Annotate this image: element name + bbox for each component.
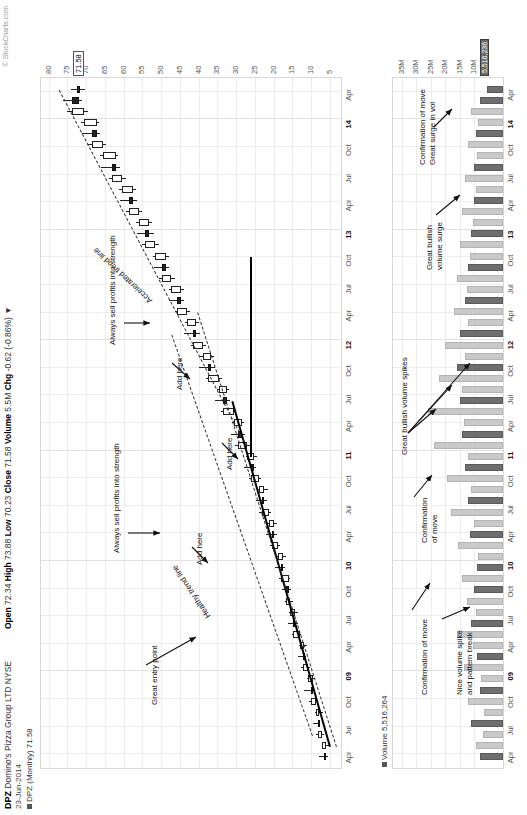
- annotation-add-here-2: Add here: [225, 438, 235, 470]
- stock-chart: DPZ Domino's Pizza Group LTD NYSE 23-Jun…: [0, 0, 527, 815]
- candle-body: [193, 330, 196, 337]
- x-axis-tick: 10: [344, 562, 353, 570]
- annotation-confirmation-of-move-2: Confirmation of move: [420, 498, 439, 543]
- x-gridline: [393, 560, 503, 561]
- volume-axis-tick: 10M: [469, 59, 478, 74]
- volume-gridline: [431, 78, 432, 768]
- candle-body: [129, 197, 134, 204]
- candle-body: [112, 175, 123, 182]
- candlestick: [41, 264, 341, 271]
- current-volume-tag: 5,516,236: [480, 39, 489, 76]
- candle-body: [177, 297, 181, 304]
- candlestick: [41, 531, 341, 538]
- x-axis-tick: Jul: [506, 726, 515, 736]
- volume-gridline: [445, 78, 446, 768]
- x-gridline: [393, 450, 503, 451]
- x-axis-tick: Jul: [344, 726, 353, 736]
- x-axis-tick: Oct: [344, 586, 353, 598]
- candlestick: [41, 219, 341, 226]
- volume-bar: [465, 464, 503, 471]
- x-axis-tick: 14: [506, 120, 515, 128]
- x-axis-tick: 09: [506, 672, 515, 680]
- volume-bar: [445, 342, 503, 349]
- candlestick: [41, 742, 341, 749]
- candle-body: [272, 531, 274, 538]
- candlestick: [41, 275, 341, 282]
- candlestick: [41, 642, 341, 649]
- volume-bar: [465, 353, 503, 360]
- price-axis-tick: 35: [212, 66, 221, 74]
- candle-body: [139, 219, 150, 226]
- price-axis-tick: 45: [175, 66, 184, 74]
- x-axis-tick: 12: [506, 341, 515, 349]
- volume-axis-tick: 30M: [411, 59, 420, 74]
- x-axis-tick: Apr: [344, 200, 353, 212]
- candle-body: [84, 119, 97, 126]
- candlestick: [41, 653, 341, 660]
- candle-body: [155, 253, 166, 260]
- price-axis-tick: 55: [137, 66, 146, 74]
- annotation-always-sell-1: Always sell profits into strength: [112, 443, 122, 553]
- x-gridline: [41, 505, 341, 506]
- candlestick: [41, 442, 341, 449]
- candle-body: [171, 286, 181, 293]
- x-axis-tick: Apr: [506, 310, 515, 322]
- annotation-great-bullish-volume-spikes: Great bullish volume spikes: [400, 357, 410, 455]
- candlestick: [41, 497, 341, 504]
- volume-bar: [468, 264, 503, 271]
- x-axis-tick: 10: [506, 562, 515, 570]
- x-axis-tick: Oct: [506, 144, 515, 156]
- volume-bar: [476, 130, 504, 137]
- volume-bar: [471, 720, 503, 727]
- annotation-add-here-3: Add here: [175, 358, 185, 390]
- volume-bar: [460, 397, 503, 404]
- x-gridline: [41, 560, 341, 561]
- volume-bar: [471, 230, 503, 237]
- x-gridline: [393, 505, 503, 506]
- volume-bar: [471, 486, 503, 493]
- trend-line: [250, 257, 252, 457]
- volume-bar: [460, 241, 503, 248]
- volume-bar: [462, 386, 503, 393]
- volume-bar: [477, 564, 503, 571]
- candlestick: [41, 453, 341, 460]
- volume-bar: [467, 598, 503, 605]
- volume-label: Volume: [3, 414, 13, 444]
- volume-gridline: [416, 78, 417, 768]
- candlestick: [41, 675, 341, 682]
- candlestick: [41, 286, 341, 293]
- candle-body: [129, 208, 139, 215]
- candle-body: [112, 164, 117, 171]
- volume-bar: [474, 197, 503, 204]
- candlestick: [41, 108, 341, 115]
- volume-bar: [468, 319, 503, 326]
- candlestick: [41, 509, 341, 516]
- x-axis-tick: Apr: [506, 89, 515, 101]
- annotation-always-sell-2: Always sell profits into strength: [108, 235, 118, 345]
- candlestick: [41, 575, 341, 582]
- candlestick: [41, 319, 341, 326]
- candlestick: [41, 208, 341, 215]
- high-value: 73.88: [3, 539, 13, 560]
- price-axis-tick: 60: [119, 66, 128, 74]
- x-axis-tick: Apr: [506, 200, 515, 212]
- volume-bar: [428, 408, 503, 415]
- price-axis-tick: 5: [325, 70, 334, 74]
- volume-axis-tick: 20M: [440, 59, 449, 74]
- x-axis-tick: 14: [344, 120, 353, 128]
- price-axis-tick: 15: [287, 66, 296, 74]
- candle-body: [92, 141, 103, 148]
- low-label: Low: [3, 519, 13, 536]
- candlestick: [41, 241, 341, 248]
- volume-caption-row: Volume 5,516,264: [380, 696, 389, 768]
- candlestick: [41, 197, 341, 204]
- candle-body: [177, 308, 188, 315]
- volume-bar: [467, 286, 503, 293]
- x-axis-tick: Apr: [344, 310, 353, 322]
- company-name: Domino's Pizza Group LTD NYSE: [3, 661, 13, 789]
- price-axis-tick: 75: [62, 66, 71, 74]
- volume-bar: [477, 653, 503, 660]
- chg-label: Chg: [3, 374, 13, 391]
- candlestick: [41, 297, 341, 304]
- volume-caption: Volume 5,516,264: [380, 696, 389, 761]
